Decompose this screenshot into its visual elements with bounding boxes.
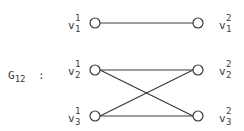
graph-name-subscript: 12	[15, 74, 26, 84]
vertex-base: v	[68, 112, 75, 125]
vertex-superscript: 1	[75, 60, 80, 69]
vertex-v32	[193, 111, 203, 121]
graph-separator: :	[38, 69, 45, 82]
vertex-base: v	[219, 65, 226, 78]
vertex-subscript: 2	[75, 71, 80, 80]
vertex-v31	[90, 111, 100, 121]
vertex-superscript: 2	[226, 107, 231, 116]
vertex-superscript: 2	[226, 60, 231, 69]
vertex-superscript: 1	[75, 107, 80, 116]
graph-name-label: G12 :	[8, 70, 45, 81]
vertex-superscript: 1	[75, 14, 80, 23]
vertex-subscript: 3	[75, 118, 80, 127]
bipartite-graph-figure: G12 : v 1 1 v 1 2 v 1 3 v 2 1 v 2 2 v 2 …	[0, 0, 244, 131]
graph-name: G	[8, 69, 15, 82]
vertex-subscript: 2	[226, 71, 231, 80]
vertex-base: v	[219, 112, 226, 125]
vertex-subscript: 3	[226, 118, 231, 127]
vertex-base: v	[68, 19, 75, 32]
vertex-superscript: 2	[226, 14, 231, 23]
vertex-base: v	[219, 19, 226, 32]
label-v22: v 2 2	[219, 66, 226, 77]
vertex-v12	[193, 18, 203, 28]
label-v12: v 2 1	[219, 20, 226, 31]
vertex-subscript: 1	[226, 25, 231, 34]
graph-canvas	[0, 0, 244, 131]
label-v11: v 1 1	[68, 20, 75, 31]
vertex-base: v	[68, 65, 75, 78]
vertex-v21	[90, 65, 100, 75]
vertex-subscript: 1	[75, 25, 80, 34]
vertex-v22	[193, 65, 203, 75]
label-v21: v 1 2	[68, 66, 75, 77]
label-v32: v 2 3	[219, 113, 226, 124]
label-v31: v 1 3	[68, 113, 75, 124]
vertex-v11	[90, 18, 100, 28]
